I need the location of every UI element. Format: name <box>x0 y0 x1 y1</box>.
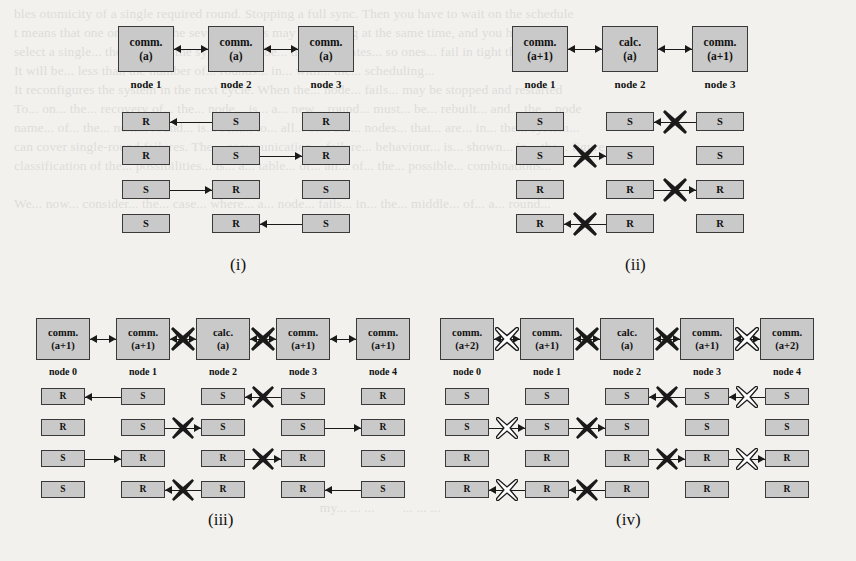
rs-box-iv-r2-n3: R <box>685 450 729 467</box>
node-stage-box-iv-4: comm.(a+2) <box>760 318 814 360</box>
node-stage-round-iv-3: (a+1) <box>695 339 718 352</box>
msg-arrow-iv-r3-0 <box>489 486 496 494</box>
node-stage-kind-iv-2: calc. <box>617 326 637 339</box>
node-label-iv-1: node 1 <box>508 366 586 377</box>
blocked-x-hollow-iv-r1a0 <box>496 417 518 439</box>
blocked-x-hollow-iv-top0 <box>495 327 519 351</box>
msg-arrow-iv-r2-1 <box>758 455 765 463</box>
node-stage-round-iv-4: (a+2) <box>775 339 798 352</box>
panel-iv: comm.(a+2)node 0comm.(a+1)node 1calc.(a)… <box>0 0 856 561</box>
rs-box-iv-r2-n2: R <box>605 450 649 467</box>
node-stage-round-iv-2: (a) <box>621 339 633 352</box>
blocked-x-solid-iv-r0a0 <box>656 386 678 408</box>
rs-box-iv-r2-n4: R <box>765 450 809 467</box>
rs-box-iv-r1-n0: S <box>445 419 489 436</box>
msg-arrow-iv-r0-0 <box>649 393 656 401</box>
node-stage-box-iv-0: comm.(a+2) <box>440 318 494 360</box>
rs-box-iv-r0-n3: S <box>685 388 729 405</box>
rs-box-iv-r0-n4: S <box>765 388 809 405</box>
msg-arrow-iv-r3-1 <box>569 486 576 494</box>
node-label-iv-0: node 0 <box>428 366 506 377</box>
msg-arrow-iv-r1-1 <box>598 424 605 432</box>
rs-box-iv-r0-n0: S <box>445 388 489 405</box>
msg-arrow-iv-r2-0 <box>678 455 685 463</box>
panel-caption-iv: (iv) <box>616 510 641 530</box>
rs-box-iv-r0-n1: S <box>525 388 569 405</box>
rs-box-iv-r3-n4: R <box>765 481 809 498</box>
rs-box-iv-r1-n4: S <box>765 419 809 436</box>
msg-arrow-iv-r0-1 <box>729 393 736 401</box>
blocked-x-solid-iv-top1 <box>575 327 599 351</box>
node-stage-kind-iv-1: comm. <box>532 326 562 339</box>
node-stage-kind-iv-3: comm. <box>692 326 722 339</box>
node-label-iv-3: node 3 <box>668 366 746 377</box>
node-label-iv-4: node 4 <box>748 366 826 377</box>
node-stage-round-iv-1: (a+1) <box>535 339 558 352</box>
node-stage-box-iv-3: comm.(a+1) <box>680 318 734 360</box>
blocked-x-solid-iv-top2 <box>655 327 679 351</box>
node-stage-round-iv-0: (a+2) <box>455 339 478 352</box>
rs-box-iv-r2-n1: R <box>525 450 569 467</box>
blocked-x-solid-iv-r2a0 <box>656 448 678 470</box>
blocked-x-hollow-iv-r0a1 <box>736 386 758 408</box>
rs-box-iv-r1-n1: S <box>525 419 569 436</box>
blocked-x-hollow-iv-top3 <box>735 327 759 351</box>
node-stage-kind-iv-4: comm. <box>772 326 802 339</box>
rs-box-iv-r1-n2: S <box>605 419 649 436</box>
node-stage-box-iv-1: comm.(a+1) <box>520 318 574 360</box>
node-stage-box-iv-2: calc.(a) <box>600 318 654 360</box>
rs-box-iv-r3-n2: R <box>605 481 649 498</box>
node-label-iv-2: node 2 <box>588 366 666 377</box>
blocked-x-solid-iv-r1a1 <box>576 417 598 439</box>
msg-arrow-iv-r1-0 <box>518 424 525 432</box>
rs-box-iv-r3-n3: R <box>685 481 729 498</box>
rs-box-iv-r3-n1: R <box>525 481 569 498</box>
rs-box-iv-r0-n2: S <box>605 388 649 405</box>
node-stage-kind-iv-0: comm. <box>452 326 482 339</box>
rs-box-iv-r1-n3: S <box>685 419 729 436</box>
blocked-x-hollow-iv-r2a1 <box>736 448 758 470</box>
figure-canvas: comm.(a)node 1comm.(a)node 2comm.(a)node… <box>0 0 856 561</box>
rs-box-iv-r3-n0: R <box>445 481 489 498</box>
blocked-x-solid-iv-r3a1 <box>576 479 598 501</box>
rs-box-iv-r2-n0: R <box>445 450 489 467</box>
blocked-x-hollow-iv-r3a0 <box>496 479 518 501</box>
